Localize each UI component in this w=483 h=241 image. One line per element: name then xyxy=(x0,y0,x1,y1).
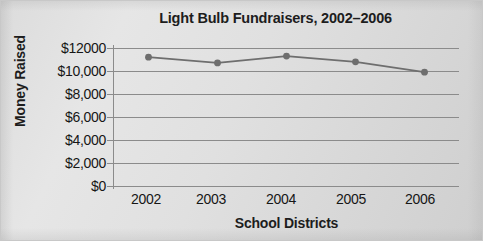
data-point-2005 xyxy=(352,58,359,65)
data-series-line xyxy=(1,1,483,241)
x-axis-title: School Districts xyxy=(114,215,459,231)
chart-figure: Light Bulb Fundraisers, 2002–2006 Money … xyxy=(0,0,483,241)
series-markers xyxy=(145,53,428,76)
data-point-2002 xyxy=(145,54,152,61)
data-point-2006 xyxy=(421,69,428,76)
data-point-2004 xyxy=(283,53,290,60)
data-point-2003 xyxy=(214,60,221,67)
